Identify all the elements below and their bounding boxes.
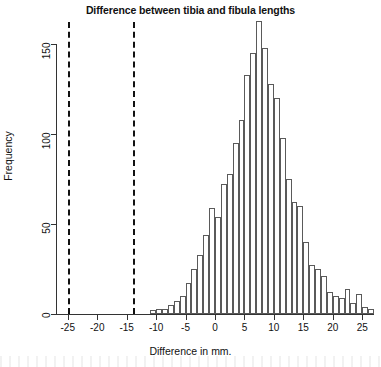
y-tick-label: 50 [41, 223, 52, 249]
x-tick [186, 315, 187, 320]
y-tick [51, 314, 56, 315]
x-tick [274, 315, 275, 320]
x-tick [215, 315, 216, 320]
y-tick [51, 224, 56, 225]
reference-line-right [133, 22, 135, 314]
x-tick [244, 315, 245, 320]
x-tick [127, 315, 128, 320]
y-tick-label: 0 [41, 313, 52, 339]
reference-line-left [68, 22, 70, 314]
histogram-figure: Difference between tibia and fibula leng… [0, 0, 381, 367]
x-tick [97, 315, 98, 320]
x-tick [362, 315, 363, 320]
x-tick [156, 315, 157, 320]
x-tick [68, 315, 69, 320]
y-tick-label: 150 [41, 43, 52, 69]
x-tick [333, 315, 334, 320]
plot-area [56, 30, 374, 314]
y-axis-line [56, 44, 57, 315]
chart-title: Difference between tibia and fibula leng… [0, 4, 381, 16]
histogram-bars [56, 30, 374, 314]
x-tick-label: 25 [345, 322, 379, 333]
y-tick [51, 134, 56, 135]
scan-artifact [0, 356, 381, 367]
y-axis-title: Frequency [2, 96, 14, 216]
x-tick [303, 315, 304, 320]
y-tick-label: 100 [41, 133, 52, 159]
y-tick [51, 44, 56, 45]
